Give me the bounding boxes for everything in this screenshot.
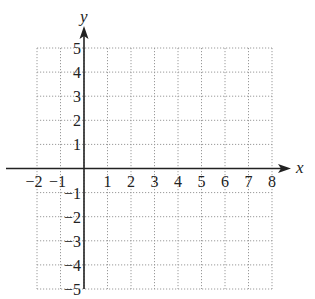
x-tick-label: 8 (268, 173, 276, 190)
y-tick-label: −1 (64, 185, 81, 202)
y-tick-label: 2 (73, 112, 81, 129)
x-tick-label: 7 (245, 173, 253, 190)
y-tick-label: 5 (73, 40, 81, 57)
x-axis-label: x (295, 158, 304, 177)
coordinate-plane: −2−112345678 −5−4−3−2−112345 x y (0, 0, 315, 299)
x-tick-label: 2 (127, 173, 135, 190)
x-tick-label: −2 (25, 173, 42, 190)
x-tick-label: 5 (198, 173, 206, 190)
x-tick-label: 6 (221, 173, 229, 190)
y-tick-label: 1 (73, 136, 81, 153)
y-tick-label: −5 (64, 281, 81, 298)
y-tick-label: 3 (73, 88, 81, 105)
y-tick-label: −4 (64, 257, 81, 274)
y-tick-label: 4 (73, 64, 81, 81)
x-tick-label: 3 (151, 173, 159, 190)
y-axis-label: y (78, 7, 88, 26)
y-tick-label: −3 (64, 233, 81, 250)
x-tick-label: 4 (174, 173, 182, 190)
x-tick-label: 1 (104, 173, 112, 190)
y-tick-label: −2 (64, 209, 81, 226)
